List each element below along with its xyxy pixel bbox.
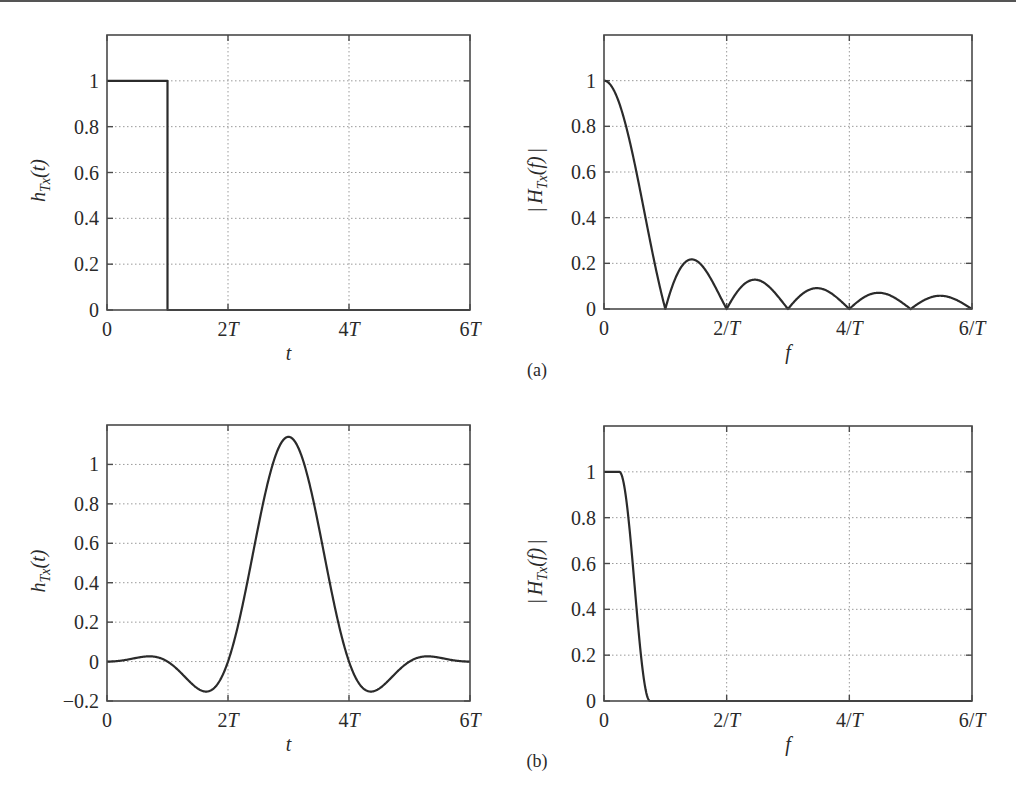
y-tick-label: 0.4 bbox=[571, 207, 596, 229]
x-tick-label: 0 bbox=[599, 709, 609, 731]
x-tick-label: 6T bbox=[459, 318, 482, 340]
y-tick-label: 0.6 bbox=[74, 162, 99, 184]
y-tick-label: 0 bbox=[586, 298, 596, 320]
y-tick-label: 0.6 bbox=[571, 161, 596, 183]
x-axis-label: t bbox=[286, 733, 292, 755]
plot-a-time-domain: 00.20.40.60.8102T4T6TthTx(t) bbox=[27, 35, 482, 364]
y-tick-label: 0 bbox=[586, 690, 596, 712]
y-tick-label: 1 bbox=[586, 70, 596, 92]
x-tick-label: 4/T bbox=[836, 709, 865, 731]
x-tick-label: 0 bbox=[102, 318, 112, 340]
y-tick-label: 0.8 bbox=[74, 493, 99, 515]
y-tick-label: 0.8 bbox=[571, 507, 596, 529]
y-tick-label: 0.6 bbox=[571, 553, 596, 575]
x-tick-label: 4T bbox=[338, 709, 361, 731]
grid-lines bbox=[604, 426, 972, 701]
x-axis-label: f bbox=[785, 733, 793, 756]
x-tick-label: 2T bbox=[217, 709, 240, 731]
y-tick-label: 0.6 bbox=[74, 532, 99, 554]
x-tick-label: 6/T bbox=[959, 709, 988, 731]
y-axis-label: | HTx(f) | bbox=[524, 148, 550, 211]
y-tick-label: 1 bbox=[89, 70, 99, 92]
panel-label-a: (a) bbox=[527, 360, 547, 381]
y-tick-label: 0 bbox=[89, 651, 99, 673]
x-tick-label: 6/T bbox=[959, 317, 988, 339]
figure-canvas: 00.20.40.60.8102T4T6TthTx(t) 00.20.40.60… bbox=[0, 0, 1016, 802]
y-tick-label: 0 bbox=[89, 299, 99, 321]
data-curve bbox=[604, 472, 972, 701]
x-axis-label: t bbox=[286, 342, 292, 364]
x-tick-label: 6T bbox=[459, 709, 482, 731]
y-axis-label: hTx(t) bbox=[27, 159, 53, 202]
y-tick-label: 0.8 bbox=[571, 115, 596, 137]
x-axis-label: f bbox=[785, 341, 793, 364]
grid-lines bbox=[604, 35, 972, 309]
x-tick-label: 2T bbox=[217, 318, 240, 340]
y-axis-label: hTx(t) bbox=[27, 549, 53, 592]
panel-label-b: (b) bbox=[527, 751, 548, 772]
x-tick-label: 4T bbox=[338, 318, 361, 340]
y-tick-label: 0.4 bbox=[571, 598, 596, 620]
y-tick-label: 0.8 bbox=[74, 116, 99, 138]
y-tick-label: 0.4 bbox=[74, 572, 99, 594]
y-tick-label: 1 bbox=[586, 461, 596, 483]
plot-b-frequency-domain: 00.20.40.60.8102/T4/T6/Tf| HTx(f) | bbox=[524, 426, 987, 756]
data-curve bbox=[107, 437, 470, 692]
y-tick-label: 1 bbox=[89, 453, 99, 475]
x-tick-label: 0 bbox=[102, 709, 112, 731]
x-tick-label: 0 bbox=[599, 317, 609, 339]
y-tick-label: 0.4 bbox=[74, 207, 99, 229]
y-tick-label: 0.2 bbox=[74, 611, 99, 633]
y-tick-label: 0.2 bbox=[571, 644, 596, 666]
y-tick-label: 0.2 bbox=[74, 253, 99, 275]
y-tick-label: −0.2 bbox=[63, 690, 99, 712]
grid-lines bbox=[107, 35, 470, 310]
plot-b-time-domain: −0.200.20.40.60.8102T4T6TthTx(t) bbox=[27, 425, 482, 755]
x-tick-label: 2/T bbox=[713, 317, 742, 339]
y-tick-label: 0.2 bbox=[571, 252, 596, 274]
data-curve bbox=[107, 81, 470, 310]
x-tick-label: 2/T bbox=[713, 709, 742, 731]
data-curve bbox=[604, 81, 972, 309]
y-axis-label: | HTx(f) | bbox=[524, 540, 550, 603]
plot-a-frequency-domain: 00.20.40.60.8102/T4/T6/Tf| HTx(f) | bbox=[524, 35, 987, 364]
x-tick-label: 4/T bbox=[836, 317, 865, 339]
